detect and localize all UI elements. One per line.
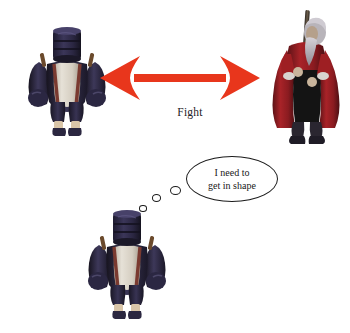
thought-bubble: I need to get in shape [186, 156, 278, 202]
character-fighter-top-left [25, 22, 109, 138]
thought-bubble-line-1: I need to [215, 166, 250, 179]
thought-dot-large [170, 186, 181, 195]
character-warrior-right [265, 10, 347, 145]
thought-bubble-text: I need to get in shape [186, 156, 278, 202]
thought-bubble-line-2: get in shape [208, 179, 256, 192]
thought-dot-medium [152, 194, 161, 202]
character-fighter-bottom [85, 205, 169, 321]
meme-scene: Fight [0, 0, 350, 333]
fight-label: Fight [155, 106, 225, 118]
fight-arrow-icon [100, 52, 260, 106]
